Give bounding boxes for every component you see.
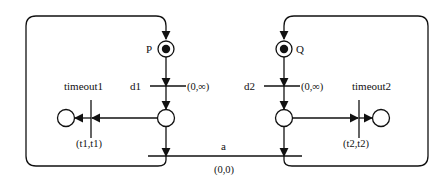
token-Q xyxy=(280,45,288,53)
petri-net-diagram: P Q d1 (0,∞) d2 (0,∞) timeout1 (t1,t1) t… xyxy=(0,0,447,184)
label-d1: d1 xyxy=(130,80,141,92)
place-p1-mid xyxy=(158,110,175,127)
token-P xyxy=(162,45,170,53)
interval-d2: (0,∞) xyxy=(301,81,324,93)
interval-d1: (0,∞) xyxy=(187,81,210,93)
label-timeout1: timeout1 xyxy=(64,80,103,92)
interval-timeout1: (t1,t1) xyxy=(76,138,102,150)
place-p1-end xyxy=(58,110,75,127)
place-p2-mid xyxy=(276,110,293,127)
label-timeout2: timeout2 xyxy=(352,80,391,92)
label-P: P xyxy=(146,43,152,55)
label-d2: d2 xyxy=(244,80,255,92)
place-p2-end xyxy=(373,110,390,127)
label-a: a xyxy=(221,140,226,152)
label-Q: Q xyxy=(296,43,304,55)
interval-a: (0,0) xyxy=(214,164,235,176)
interval-timeout2: (t2,t2) xyxy=(343,138,369,150)
